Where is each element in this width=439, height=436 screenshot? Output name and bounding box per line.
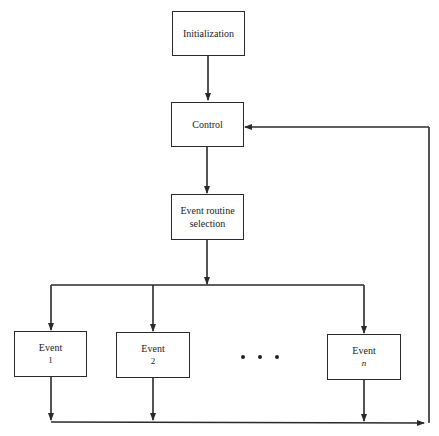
ellipsis-dots bbox=[241, 355, 279, 359]
control-box: Control bbox=[171, 102, 244, 147]
event-n-label: Event bbox=[352, 344, 375, 357]
dot bbox=[241, 355, 245, 359]
event-routine-selection-box: Event routine selection bbox=[171, 194, 244, 240]
event-n-index: n bbox=[362, 357, 367, 370]
event-1-index: 1 bbox=[48, 354, 53, 367]
event-2-index: 2 bbox=[151, 355, 156, 368]
event-1-label: Event bbox=[39, 341, 62, 354]
event-1-box: Event 1 bbox=[14, 331, 87, 377]
initialization-label: Initialization bbox=[183, 27, 234, 40]
event-n-box: Event n bbox=[327, 334, 401, 380]
collection-line bbox=[51, 422, 424, 423]
event-2-box: Event 2 bbox=[116, 332, 190, 378]
selection-label-line2: selection bbox=[190, 217, 226, 230]
dot bbox=[275, 355, 279, 359]
control-label: Control bbox=[192, 118, 223, 131]
initialization-box: Initialization bbox=[172, 11, 245, 56]
event-2-label: Event bbox=[141, 342, 164, 355]
dot bbox=[258, 355, 262, 359]
selection-label-line1: Event routine bbox=[180, 204, 234, 217]
